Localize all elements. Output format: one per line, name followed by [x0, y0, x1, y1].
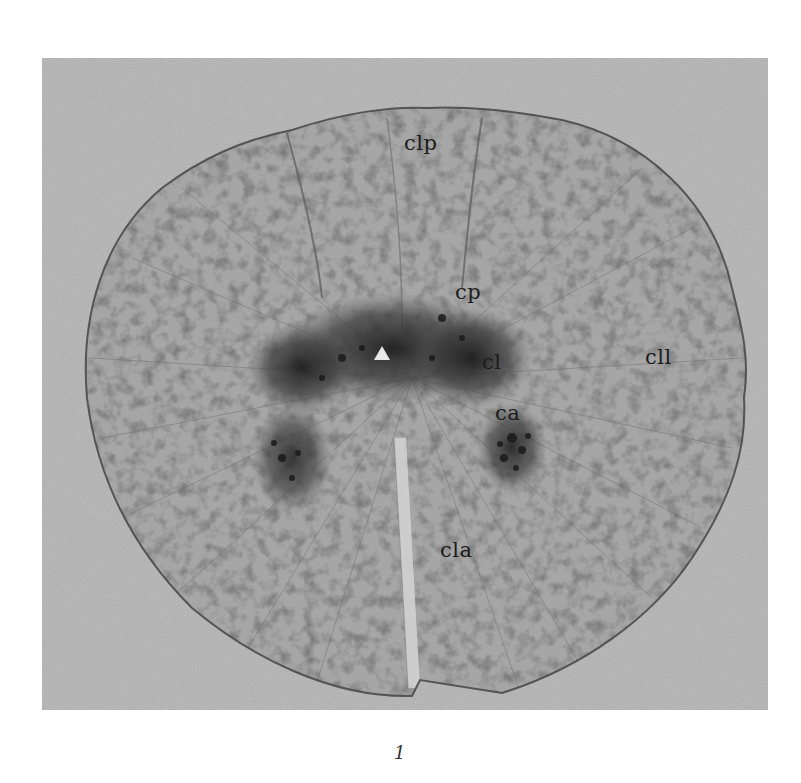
figure-number: 1: [394, 742, 405, 763]
micrograph-plate: clp cp cl ca cll cla: [42, 58, 768, 710]
label-ca: ca: [495, 403, 520, 424]
label-cl: cl: [482, 352, 501, 373]
label-clp: clp: [404, 133, 437, 154]
spinal-cord-section-illustration: [42, 58, 768, 710]
label-cp: cp: [455, 282, 481, 303]
label-cll: cll: [645, 347, 672, 368]
label-cla: cla: [440, 540, 473, 561]
